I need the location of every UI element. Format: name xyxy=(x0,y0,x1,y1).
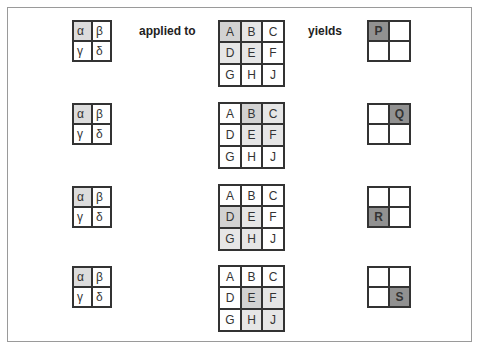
input-grid: ABCDEFGHJ xyxy=(218,102,285,169)
output-cell: S xyxy=(389,287,410,307)
input-cell: B xyxy=(241,185,262,206)
output-grid: Q xyxy=(367,103,411,145)
kernel-cell: δ xyxy=(92,124,111,144)
output-cell xyxy=(368,124,389,144)
kernel-cell: α xyxy=(73,187,92,207)
kernel-cell: δ xyxy=(92,207,111,227)
applied-to-label: applied to xyxy=(139,24,196,38)
input-cell: F xyxy=(262,206,284,228)
output-cell xyxy=(368,104,389,124)
input-cell: A xyxy=(219,185,241,206)
input-cell: A xyxy=(219,266,241,287)
input-cell: H xyxy=(241,64,262,86)
input-cell: D xyxy=(219,287,241,309)
output-cell xyxy=(368,41,389,61)
input-cell: E xyxy=(241,42,262,64)
kernel-cell: α xyxy=(73,21,92,41)
kernel-cell: β xyxy=(92,21,111,41)
output-cell xyxy=(389,41,410,61)
input-cell: C xyxy=(262,266,284,287)
kernel-cell: γ xyxy=(73,207,92,227)
kernel-grid: αβγδ xyxy=(72,266,112,308)
input-cell: G xyxy=(219,309,241,331)
input-cell: G xyxy=(219,228,241,250)
input-cell: H xyxy=(241,146,262,168)
kernel-cell: α xyxy=(73,267,92,287)
input-grid: ABCDEFGHJ xyxy=(218,184,285,251)
input-cell: C xyxy=(262,21,284,42)
input-cell: E xyxy=(241,206,262,228)
input-cell: E xyxy=(241,287,262,309)
input-cell: F xyxy=(262,124,284,146)
input-cell: F xyxy=(262,42,284,64)
output-cell: P xyxy=(368,21,389,41)
input-cell: H xyxy=(241,309,262,331)
input-cell: G xyxy=(219,64,241,86)
output-cell xyxy=(389,124,410,144)
input-cell: J xyxy=(262,309,284,331)
input-cell: B xyxy=(241,21,262,42)
kernel-grid: αβγδ xyxy=(72,103,112,145)
output-grid: P xyxy=(367,20,411,62)
output-cell xyxy=(389,187,410,207)
kernel-cell: δ xyxy=(92,41,111,61)
kernel-cell: γ xyxy=(73,41,92,61)
output-cell xyxy=(368,287,389,307)
output-cell xyxy=(389,267,410,287)
input-cell: A xyxy=(219,21,241,42)
kernel-cell: γ xyxy=(73,287,92,307)
output-cell: Q xyxy=(389,104,410,124)
input-cell: B xyxy=(241,103,262,124)
kernel-cell: β xyxy=(92,187,111,207)
output-cell: R xyxy=(368,207,389,227)
input-cell: J xyxy=(262,146,284,168)
input-cell: F xyxy=(262,287,284,309)
kernel-grid: αβγδ xyxy=(72,186,112,228)
input-cell: J xyxy=(262,228,284,250)
input-grid: ABCDEFGHJ xyxy=(218,20,285,87)
input-cell: C xyxy=(262,185,284,206)
output-grid: S xyxy=(367,266,411,308)
input-cell: A xyxy=(219,103,241,124)
input-cell: C xyxy=(262,103,284,124)
yields-label: yields xyxy=(308,24,342,38)
kernel-grid: αβγδ xyxy=(72,20,112,62)
kernel-cell: α xyxy=(73,104,92,124)
output-cell xyxy=(368,187,389,207)
kernel-cell: γ xyxy=(73,124,92,144)
input-cell: J xyxy=(262,64,284,86)
kernel-cell: β xyxy=(92,267,111,287)
output-cell xyxy=(368,267,389,287)
output-grid: R xyxy=(367,186,411,228)
input-cell: B xyxy=(241,266,262,287)
kernel-cell: δ xyxy=(92,287,111,307)
kernel-cell: β xyxy=(92,104,111,124)
input-grid: ABCDEFGHJ xyxy=(218,265,285,332)
input-cell: D xyxy=(219,42,241,64)
output-cell xyxy=(389,21,410,41)
input-cell: E xyxy=(241,124,262,146)
input-cell: H xyxy=(241,228,262,250)
input-cell: D xyxy=(219,206,241,228)
input-cell: G xyxy=(219,146,241,168)
input-cell: D xyxy=(219,124,241,146)
output-cell xyxy=(389,207,410,227)
